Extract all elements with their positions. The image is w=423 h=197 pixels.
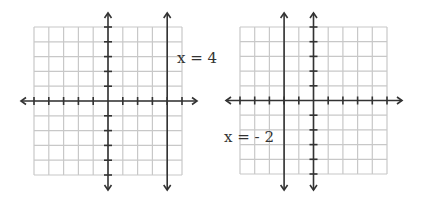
label-right-equation: x = - 2 [224, 130, 274, 145]
graph-right [226, 13, 402, 190]
graph-left [21, 13, 197, 190]
y-axis [310, 13, 318, 190]
vertical-line-plot [281, 13, 288, 190]
label-left-equation: x = 4 [177, 51, 217, 66]
x-axis [21, 97, 197, 105]
graphs-canvas [0, 0, 423, 197]
